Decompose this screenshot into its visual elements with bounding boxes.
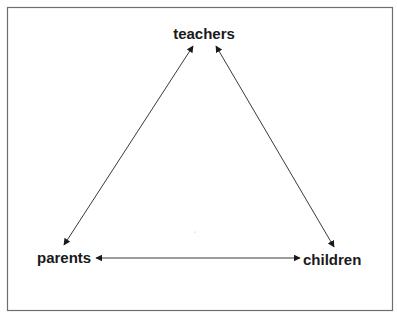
node-parents: parents: [37, 249, 91, 266]
node-children: children: [303, 251, 361, 268]
relationship-diagram: teachers parents children: [0, 0, 397, 319]
node-teachers: teachers: [173, 25, 235, 42]
scan-speck: [194, 231, 195, 232]
